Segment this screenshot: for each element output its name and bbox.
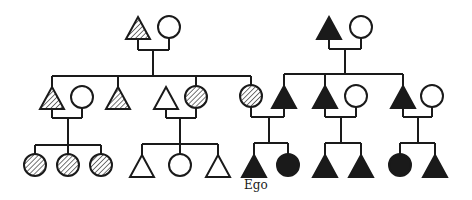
female-circle-icon bbox=[71, 86, 93, 108]
female-circle-icon bbox=[158, 16, 180, 38]
male-triangle-icon bbox=[130, 155, 154, 177]
female-circle-icon bbox=[90, 154, 112, 176]
female-circle-icon bbox=[24, 154, 46, 176]
male-triangle-icon bbox=[349, 155, 373, 177]
kinship-pedigree-diagram: Ego bbox=[0, 0, 472, 200]
male-triangle-icon bbox=[423, 155, 447, 177]
male-triangle-icon bbox=[272, 86, 296, 108]
female-circle-icon bbox=[389, 154, 411, 176]
male-triangle-icon bbox=[313, 155, 337, 177]
ego-label: Ego bbox=[244, 178, 268, 192]
male-triangle-icon bbox=[40, 87, 64, 109]
male-triangle-icon bbox=[126, 17, 150, 39]
female-circle-icon bbox=[169, 154, 191, 176]
male-triangle-icon bbox=[154, 87, 178, 109]
male-triangle-icon bbox=[242, 155, 266, 177]
female-circle-icon bbox=[277, 154, 299, 176]
female-circle-icon bbox=[185, 86, 207, 108]
individuals bbox=[24, 16, 447, 177]
male-triangle-icon bbox=[313, 86, 337, 108]
male-triangle-icon bbox=[106, 87, 130, 109]
male-triangle-icon bbox=[206, 155, 230, 177]
female-circle-icon bbox=[350, 16, 372, 38]
kinship-lines bbox=[35, 38, 435, 155]
female-circle-icon bbox=[421, 85, 443, 107]
female-circle-icon bbox=[57, 154, 79, 176]
male-triangle-icon bbox=[317, 17, 341, 39]
male-triangle-icon bbox=[391, 86, 415, 108]
female-circle-icon bbox=[240, 85, 262, 107]
female-circle-icon bbox=[345, 85, 367, 107]
